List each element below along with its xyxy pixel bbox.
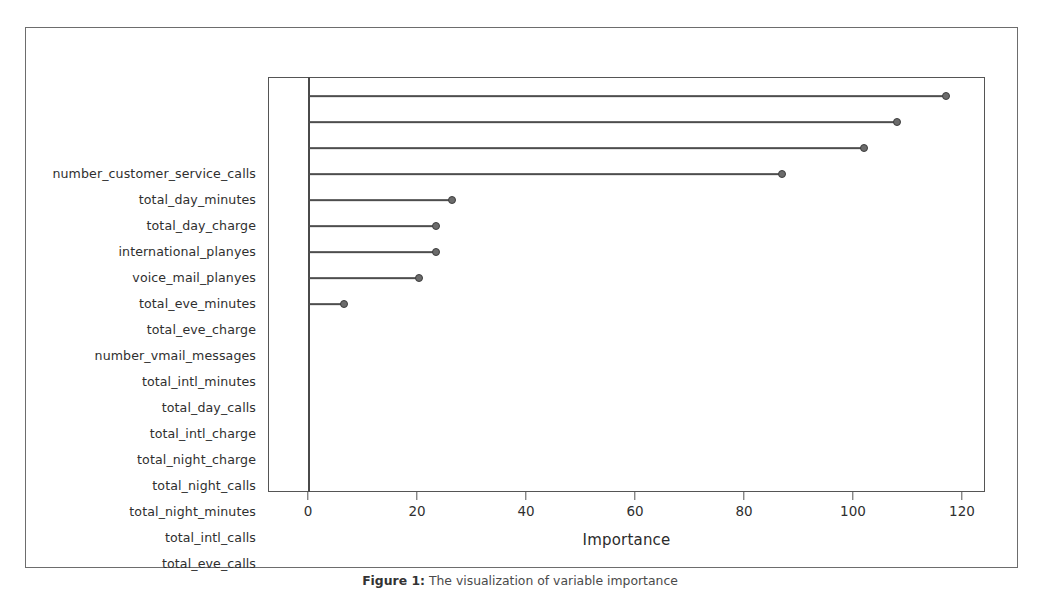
x-axis-title: Importance xyxy=(268,531,985,549)
variable-importance-chart: number_customer_service_callstotal_day_m… xyxy=(0,0,1037,591)
x-axis-tick-label: 60 xyxy=(626,503,643,519)
figure-caption-text: The visualization of variable importance xyxy=(429,573,678,588)
figure-caption-prefix: Figure 1: xyxy=(362,573,425,588)
x-axis-tick xyxy=(525,492,526,500)
figure-caption: Figure 1: The visualization of variable … xyxy=(140,573,900,588)
x-axis-tick-label: 100 xyxy=(840,503,866,519)
x-axis-tick-label: 80 xyxy=(735,503,752,519)
x-axis-tick-label: 0 xyxy=(304,503,313,519)
x-axis-tick xyxy=(852,492,853,500)
x-axis-tick-label: 40 xyxy=(517,503,534,519)
x-axis: 020406080100120 xyxy=(0,0,1037,591)
x-axis-tick xyxy=(961,492,962,500)
x-axis-tick xyxy=(743,492,744,500)
x-axis-tick-label: 20 xyxy=(408,503,425,519)
x-axis-tick xyxy=(416,492,417,500)
x-axis-tick xyxy=(307,492,308,500)
x-axis-tick-label: 120 xyxy=(949,503,975,519)
x-axis-tick xyxy=(634,492,635,500)
